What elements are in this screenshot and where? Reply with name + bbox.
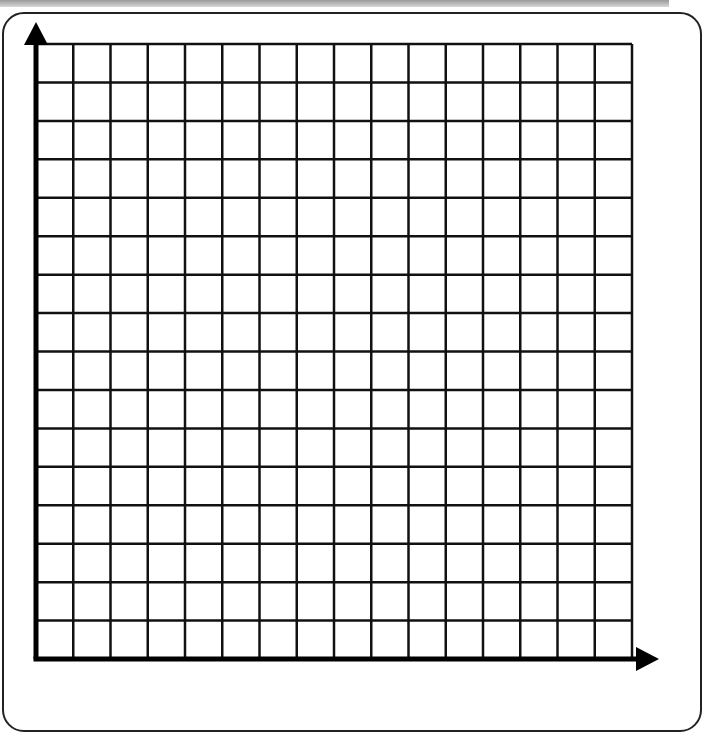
grid-lines bbox=[36, 44, 632, 659]
axes bbox=[24, 22, 659, 671]
x-axis-arrow-icon bbox=[636, 647, 659, 671]
y-axis-arrow-icon bbox=[24, 22, 48, 45]
